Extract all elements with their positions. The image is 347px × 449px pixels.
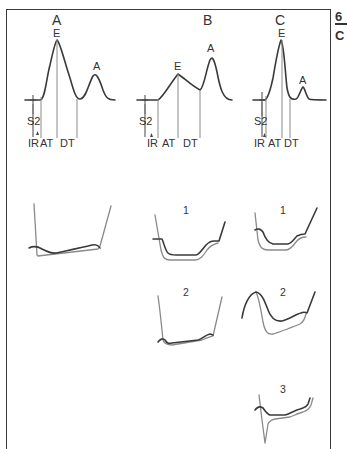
panel-c-s2-label: S2	[254, 115, 267, 127]
pressure-tracing-b1: 1	[153, 204, 225, 260]
panel-b: B E A S2 IR AT DT	[137, 12, 232, 149]
pressure-c3-label: 3	[280, 383, 286, 395]
pressure-b1-label: 1	[183, 204, 189, 216]
panel-b-s2-marker	[144, 104, 146, 114]
pressure-tracing-c2: 2	[242, 286, 315, 334]
panel-a-label: A	[52, 12, 62, 28]
panel-c-a-label: A	[299, 74, 307, 86]
panel-c: C E A S2 IR AT DT	[253, 12, 326, 149]
panel-a: A E A S2 IR AT DT	[25, 12, 115, 149]
panel-c-flow-curve	[253, 40, 326, 100]
pressure-tracing-b2: 2	[158, 286, 222, 345]
panel-b-e-label: E	[174, 60, 181, 72]
panel-a-ir-label: IR	[28, 137, 39, 149]
panel-c-label: C	[275, 12, 285, 28]
pressure-tracing-c1: 1	[255, 204, 317, 250]
panel-b-ir-label: IR	[147, 137, 158, 149]
panel-b-at-label: AT	[162, 137, 176, 149]
pressure-c1-dark-trace	[255, 208, 317, 244]
pressure-c2-label: 2	[280, 286, 286, 298]
pressure-c3-gray-trace	[259, 395, 313, 443]
panel-b-dt-label: DT	[183, 137, 198, 149]
panel-c-s2-marker	[261, 102, 263, 116]
panel-c-at-label: AT	[268, 137, 282, 149]
panel-a-a-label: A	[93, 60, 101, 72]
pressure-b1-gray-trace	[155, 215, 218, 260]
pressure-b1-dark-trace	[153, 222, 225, 255]
panel-a-s2-label: S2	[27, 115, 40, 127]
pressure-b2-label: 2	[183, 286, 189, 298]
panel-a-dt-label: DT	[60, 137, 75, 149]
panel-a-s2-marker	[32, 104, 34, 114]
panel-c-ir-label: IR	[254, 137, 265, 149]
pressure-tracing-a	[29, 204, 111, 256]
pressure-a-dark-trace	[29, 245, 100, 254]
pressure-c2-dark-trace	[242, 292, 315, 321]
panel-b-label: B	[203, 12, 212, 28]
panel-a-e-label: E	[53, 27, 60, 39]
panel-a-ir-arrow-icon	[36, 131, 39, 135]
panel-c-e-label: E	[278, 27, 285, 39]
pressure-c1-label: 1	[280, 204, 286, 216]
panel-c-dt-label: DT	[284, 137, 299, 149]
panel-b-a-label: A	[207, 42, 215, 54]
pressure-b2-gray-trace	[158, 296, 222, 345]
panel-a-flow-curve	[25, 40, 115, 100]
panel-b-s2-label: S2	[139, 115, 152, 127]
panel-b-flow-curve	[137, 58, 232, 100]
pressure-tracing-c3: 3	[255, 383, 313, 443]
panel-a-at-label: AT	[40, 137, 54, 149]
